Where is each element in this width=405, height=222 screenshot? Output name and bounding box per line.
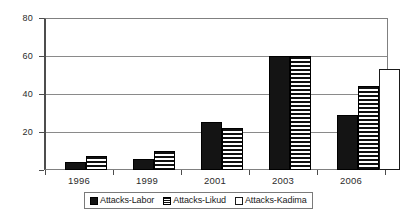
legend-swatch-icon-attacks-labor — [90, 197, 98, 205]
x-tick-mark-0 — [45, 170, 46, 175]
legend-item-attacks-kadima: Attacks-Kadima — [235, 196, 307, 205]
bar-2006-attacks-kadima — [379, 69, 400, 170]
x-tick-label-2003: 2003 — [272, 176, 294, 186]
x-tick-mark-3 — [249, 170, 250, 175]
bar-1996-attacks-labor — [65, 162, 86, 170]
legend-label-attacks-labor: Attacks-Labor — [100, 196, 154, 205]
bar-1999-attacks-likud — [154, 151, 175, 170]
y-tick-mark-60 — [39, 56, 44, 57]
x-tick-label-1996: 1996 — [68, 176, 90, 186]
bar-2006-attacks-labor — [337, 115, 358, 170]
y-tick-label-20: 20 — [23, 128, 33, 137]
y-tick-label-60: 60 — [23, 52, 33, 61]
x-tick-label-2001: 2001 — [204, 176, 226, 186]
bars-layer — [45, 18, 387, 170]
bar-2003-attacks-likud — [290, 56, 311, 170]
legend-item-attacks-likud: Attacks-Likud — [163, 196, 226, 205]
x-tick-mark-4 — [317, 170, 318, 175]
y-tick-mark-40 — [39, 94, 44, 95]
y-axis: 80 60 40 20 — [0, 0, 40, 222]
legend-item-attacks-labor: Attacks-Labor — [90, 196, 154, 205]
y-tick-mark-0 — [39, 170, 44, 171]
bar-1996-attacks-likud — [86, 156, 107, 170]
x-tick-label-1999: 1999 — [136, 176, 158, 186]
y-tick-mark-80 — [39, 18, 44, 19]
bar-2003-attacks-labor — [269, 56, 290, 170]
bar-2006-attacks-likud — [358, 86, 379, 170]
legend-label-attacks-kadima: Attacks-Kadima — [245, 196, 307, 205]
x-tick-mark-2 — [181, 170, 182, 175]
bar-chart: 80 60 40 20 1996 1999 2001 2003 2006 — [0, 0, 405, 222]
y-tick-label-40: 40 — [23, 90, 33, 99]
x-tick-mark-1 — [113, 170, 114, 175]
y-tick-label-80: 80 — [23, 14, 33, 23]
y-tick-mark-20 — [39, 132, 44, 133]
x-tick-label-2006: 2006 — [340, 176, 362, 186]
legend-swatch-icon-attacks-kadima — [235, 197, 243, 205]
bar-2001-attacks-labor — [201, 122, 222, 170]
bar-2001-attacks-likud — [222, 128, 243, 170]
chart-legend: Attacks-Labor Attacks-Likud Attacks-Kadi… — [84, 192, 313, 209]
bar-1999-attacks-labor — [133, 159, 154, 170]
legend-label-attacks-likud: Attacks-Likud — [173, 196, 226, 205]
x-tick-mark-5 — [385, 170, 386, 175]
legend-swatch-icon-attacks-likud — [163, 197, 171, 205]
